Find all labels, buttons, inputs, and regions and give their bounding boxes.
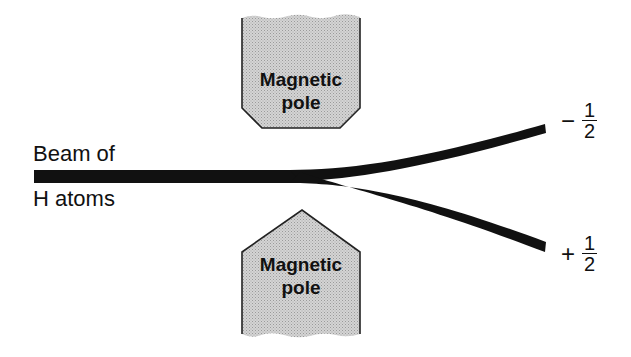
spin-sign-plus: +	[558, 240, 578, 268]
fraction-numerator: 1	[582, 233, 597, 254]
beam-label-line2: H atoms	[33, 186, 115, 212]
fraction-one-half: 1 2	[582, 233, 597, 274]
fraction-denominator: 2	[582, 254, 597, 274]
spin-minus-half-label: − 1 2	[558, 100, 597, 141]
beam-label-line1: Beam of	[33, 141, 115, 167]
bottom-pole-label: Magnetic pole	[242, 253, 360, 299]
top-pole-label: Magnetic pole	[242, 68, 360, 114]
fraction-one-half: 1 2	[582, 100, 597, 141]
spin-sign-minus: −	[558, 107, 578, 135]
stern-gerlach-diagram	[0, 0, 631, 357]
top-pole-label-line1: Magnetic	[242, 68, 360, 91]
fraction-denominator: 2	[582, 121, 597, 141]
bottom-pole-label-line2: pole	[242, 276, 360, 299]
spin-plus-half-label: + 1 2	[558, 233, 597, 274]
fraction-numerator: 1	[582, 100, 597, 121]
incoming-beam	[34, 170, 300, 183]
beam-split-upper	[290, 124, 546, 181]
bottom-pole-label-line1: Magnetic	[242, 253, 360, 276]
top-pole-label-line2: pole	[242, 91, 360, 114]
